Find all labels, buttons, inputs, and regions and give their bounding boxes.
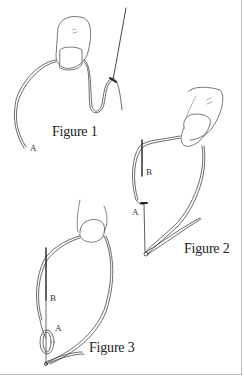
figure-2-caption: Figure 2 [184,241,229,257]
figure-1-caption: Figure 1 [52,124,97,140]
threading-illustration [0,0,244,382]
figure-3-caption: Figure 3 [89,340,134,356]
figure-2-label-a: A [132,207,139,217]
figure-2-label-b: B [146,167,152,177]
figure-3-label-b: B [50,293,56,303]
figure-3-label-a: A [55,323,62,333]
figure-1-label-a: A [30,143,37,153]
